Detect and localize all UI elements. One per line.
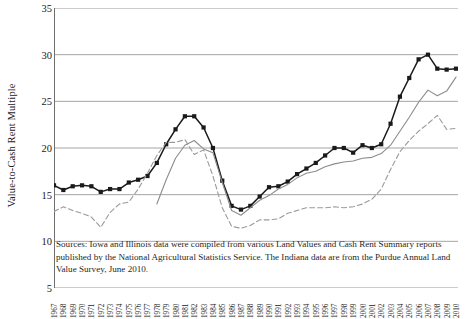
x-tick-label: 1991 bbox=[275, 304, 283, 318]
data-point-marker bbox=[173, 127, 177, 131]
data-point-marker bbox=[304, 166, 308, 170]
data-point-marker bbox=[435, 67, 439, 71]
data-point-marker bbox=[54, 183, 56, 187]
x-tick-label: 1973 bbox=[107, 304, 115, 318]
x-tick-label: 1969 bbox=[70, 304, 78, 318]
data-point-marker bbox=[314, 161, 318, 165]
data-point-marker bbox=[99, 190, 103, 194]
x-tick-label: 1989 bbox=[257, 304, 265, 318]
data-point-marker bbox=[407, 76, 411, 80]
y-tick-label: 25 bbox=[26, 96, 52, 107]
data-point-marker bbox=[201, 125, 205, 129]
y-axis-label: Value-to-Cash Rent Multiple bbox=[6, 83, 17, 207]
x-tick-label: 1982 bbox=[191, 304, 199, 318]
y-axis-ticks: 5101520253035 bbox=[22, 0, 52, 319]
x-tick-label: 1977 bbox=[144, 304, 152, 318]
data-point-marker bbox=[89, 184, 93, 188]
data-point-marker bbox=[426, 53, 430, 57]
data-point-marker bbox=[417, 57, 421, 61]
data-point-marker bbox=[454, 67, 458, 71]
x-tick-label: 1981 bbox=[182, 304, 190, 318]
data-point-marker bbox=[445, 68, 449, 72]
x-tick-label: 1990 bbox=[266, 304, 274, 318]
data-point-marker bbox=[360, 143, 364, 147]
x-tick-label: 2003 bbox=[388, 304, 396, 318]
data-point-marker bbox=[117, 187, 121, 191]
data-point-marker bbox=[239, 208, 243, 212]
data-point-marker bbox=[108, 187, 112, 191]
data-point-marker bbox=[71, 184, 75, 188]
x-tick-label: 2000 bbox=[360, 304, 368, 318]
x-tick-label: 2004 bbox=[397, 304, 405, 318]
x-tick-label: 1995 bbox=[313, 304, 321, 318]
data-point-marker bbox=[61, 188, 65, 192]
x-tick-label: 2006 bbox=[416, 304, 424, 318]
data-point-marker bbox=[295, 172, 299, 176]
x-tick-label: 1988 bbox=[247, 304, 255, 318]
x-tick-label: 1975 bbox=[126, 304, 134, 318]
data-point-marker bbox=[192, 114, 196, 118]
x-tick-label: 1979 bbox=[163, 304, 171, 318]
data-point-marker bbox=[155, 161, 159, 165]
data-point-marker bbox=[258, 194, 262, 198]
data-point-marker bbox=[323, 153, 327, 157]
x-tick-label: 2008 bbox=[434, 304, 442, 318]
x-tick-label: 2005 bbox=[406, 304, 414, 318]
y-tick-label: 5 bbox=[26, 283, 52, 294]
x-tick-label: 1993 bbox=[294, 304, 302, 318]
x-tick-label: 1978 bbox=[154, 304, 162, 318]
y-tick-label: 30 bbox=[26, 49, 52, 60]
data-point-marker bbox=[80, 183, 84, 187]
data-point-marker bbox=[136, 178, 140, 182]
data-point-marker bbox=[370, 146, 374, 150]
x-tick-label: 2002 bbox=[378, 304, 386, 318]
x-tick-label: 1980 bbox=[173, 304, 181, 318]
x-tick-label: 1998 bbox=[341, 304, 349, 318]
source-note: Sources: Iowa and Illinois data were com… bbox=[56, 238, 452, 276]
x-tick-label: 1974 bbox=[116, 304, 124, 318]
x-axis-ticks: 1967196819691970197119721973197419751976… bbox=[54, 290, 458, 319]
series-line-indiana bbox=[54, 55, 456, 210]
x-tick-label: 1967 bbox=[51, 304, 59, 318]
x-tick-label: 1987 bbox=[238, 304, 246, 318]
data-point-marker bbox=[388, 122, 392, 126]
data-point-marker bbox=[332, 146, 336, 150]
x-tick-label: 2010 bbox=[453, 304, 461, 318]
y-tick-label: 15 bbox=[26, 189, 52, 200]
x-tick-label: 1971 bbox=[88, 304, 96, 318]
x-tick-label: 1968 bbox=[60, 304, 68, 318]
data-point-marker bbox=[379, 142, 383, 146]
x-tick-label: 1996 bbox=[322, 304, 330, 318]
data-point-marker bbox=[211, 146, 215, 150]
data-point-marker bbox=[351, 151, 355, 155]
x-tick-label: 1992 bbox=[285, 304, 293, 318]
x-tick-label: 2009 bbox=[444, 304, 452, 318]
data-point-marker bbox=[342, 146, 346, 150]
y-tick-label: 10 bbox=[26, 236, 52, 247]
data-point-marker bbox=[267, 185, 271, 189]
chart-figure: Value-to-Cash Rent Multiple 510152025303… bbox=[0, 0, 465, 319]
x-tick-label: 1986 bbox=[229, 304, 237, 318]
x-tick-label: 1984 bbox=[210, 304, 218, 318]
x-tick-label: 1972 bbox=[98, 304, 106, 318]
data-point-marker bbox=[183, 114, 187, 118]
x-tick-label: 1970 bbox=[79, 304, 87, 318]
data-point-marker bbox=[398, 95, 402, 99]
x-tick-label: 1983 bbox=[201, 304, 209, 318]
x-tick-label: 1999 bbox=[350, 304, 358, 318]
x-tick-label: 1997 bbox=[331, 304, 339, 318]
y-tick-label: 35 bbox=[26, 3, 52, 14]
x-tick-label: 2001 bbox=[369, 304, 377, 318]
x-tick-label: 1985 bbox=[219, 304, 227, 318]
x-tick-label: 1976 bbox=[135, 304, 143, 318]
series-line-iowa bbox=[54, 115, 456, 228]
x-tick-label: 2007 bbox=[425, 304, 433, 318]
data-point-marker bbox=[127, 180, 131, 184]
y-axis-label-container: Value-to-Cash Rent Multiple bbox=[0, 0, 22, 290]
x-tick-label: 1994 bbox=[303, 304, 311, 318]
y-tick-label: 20 bbox=[26, 143, 52, 154]
